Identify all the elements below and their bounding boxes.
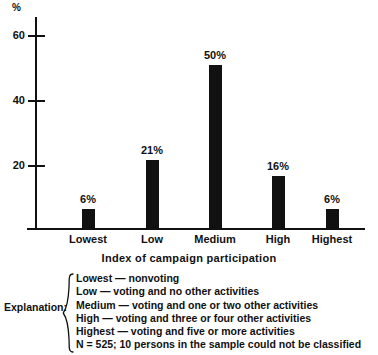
bar-low[interactable] <box>146 160 159 228</box>
bar-value-high: 16% <box>256 161 300 172</box>
explanation-line: Low — voting and no other activities <box>76 285 376 298</box>
explanation-list: Lowest — nonvoting Low — voting and no o… <box>76 272 376 352</box>
bar-lowest[interactable] <box>82 209 95 228</box>
y-tick-20 <box>28 165 45 167</box>
category-label-low: Low <box>117 234 187 245</box>
y-tick-label-60-wrap: 60 <box>0 30 25 41</box>
category-label-lowest: Lowest <box>53 234 123 245</box>
explanation-line: Highest — voting and five or more activi… <box>76 325 376 338</box>
y-tick-60 <box>28 35 45 37</box>
bar-value-low: 21% <box>130 145 174 156</box>
y-tick-label-20: 20 <box>1 160 25 171</box>
y-axis-unit-label: % <box>12 2 21 13</box>
category-label-highest: Highest <box>297 234 367 245</box>
x-axis-line <box>27 228 365 230</box>
y-tick-label-60: 60 <box>1 30 25 41</box>
y-tick-label-40: 40 <box>1 95 25 106</box>
explanation-block: Explanation: Lowest — nonvoting Low — vo… <box>0 272 378 355</box>
bar-medium[interactable] <box>209 65 222 228</box>
bar-value-lowest: 6% <box>66 194 110 205</box>
category-label-medium: Medium <box>180 234 250 245</box>
explanation-label: Explanation: <box>4 302 67 313</box>
y-tick-40 <box>28 100 45 102</box>
y-axis-line <box>35 17 37 230</box>
curly-brace-icon <box>62 273 74 353</box>
plot-area: % 60 40 20 6% Lowest 21% Low 50% Medium <box>0 0 378 232</box>
explanation-line: Medium — voting and one or two other act… <box>76 299 376 312</box>
bar-highest[interactable] <box>326 209 339 228</box>
bar-value-highest: 6% <box>310 194 354 205</box>
bar-value-medium: 50% <box>193 50 237 61</box>
bar-high[interactable] <box>272 176 285 228</box>
explanation-line: Lowest — nonvoting <box>76 272 376 285</box>
y-tick-label-40-wrap: 40 <box>0 95 25 106</box>
explanation-line: N = 525; 10 persons in the sample could … <box>76 338 376 351</box>
y-tick-label-20-wrap: 20 <box>0 160 25 171</box>
explanation-line: High — voting and three or four other ac… <box>76 312 376 325</box>
bar-chart-figure: % 60 40 20 6% Lowest 21% Low 50% Medium <box>0 0 378 355</box>
x-axis-title: Index of campaign participation <box>0 252 378 264</box>
